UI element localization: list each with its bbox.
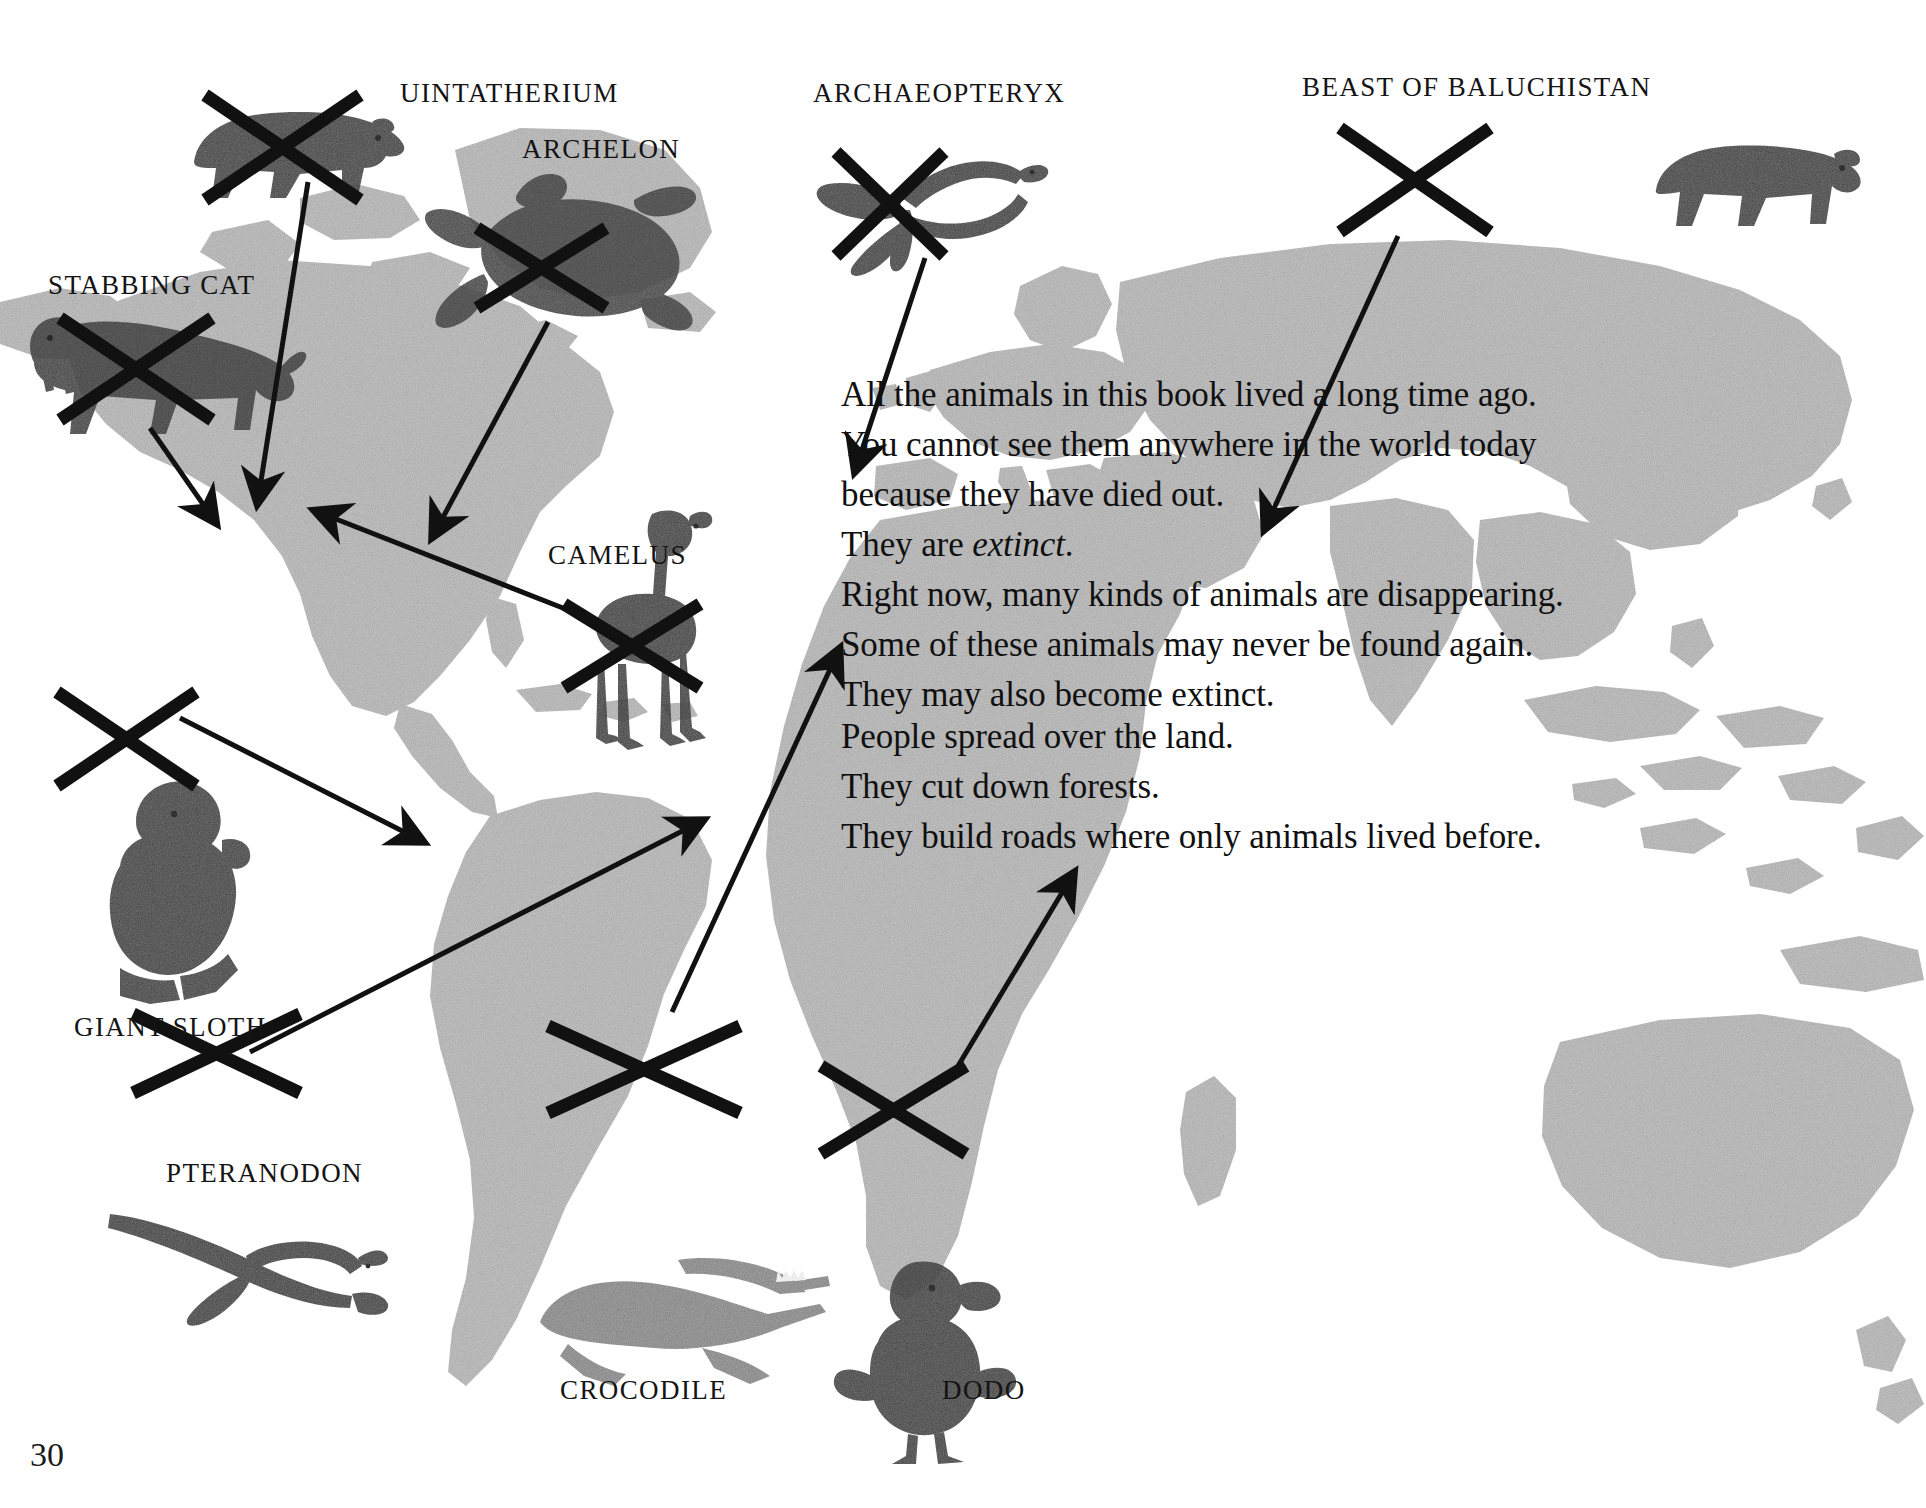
figure-pteranodon: [100, 1196, 390, 1336]
text-line-3: because they have died out.: [841, 470, 1564, 520]
text-line-2: You cannot see them anywhere in the worl…: [841, 420, 1564, 470]
label-beast-of-baluchistan: BEAST OF BALUCHISTAN: [1302, 72, 1651, 103]
label-dodo: DODO: [942, 1375, 1026, 1406]
figure-camelus: [556, 500, 716, 760]
figure-crocodile: [530, 1236, 830, 1396]
paragraph-people-impact: People spread over the land. They cut do…: [841, 712, 1542, 862]
text-line-5: Right now, many kinds of animals are dis…: [841, 570, 1564, 620]
label-pteranodon: PTERANODON: [166, 1158, 363, 1189]
label-giant-sloth: GIANT SLOTH: [74, 1012, 267, 1043]
text-line-1: All the animals in this book lived a lon…: [841, 370, 1564, 420]
figure-uintatherium: [182, 88, 410, 218]
figure-stabbing-cat: [16, 300, 306, 460]
label-uintatherium: UINTATHERIUM: [400, 78, 619, 109]
figure-beast-of-baluchistan: [1636, 128, 1866, 258]
text-line-4: They are extinct.: [841, 520, 1564, 570]
figure-dodo: [820, 1248, 1020, 1468]
figure-archelon: [420, 170, 700, 340]
figure-archaeopteryx: [810, 140, 1050, 280]
label-archelon: ARCHELON: [522, 134, 680, 165]
label-archaeopteryx: ARCHAEOPTERYX: [813, 78, 1065, 109]
label-camelus: CAMELUS: [548, 540, 687, 571]
book-page-spread: UINTATHERIUM ARCHELON ARCHAEOPTERYX BEAS…: [0, 0, 1926, 1508]
figure-giant-sloth: [76, 770, 256, 1010]
text-line-9: They cut down forests.: [841, 762, 1542, 812]
text-line-8: People spread over the land.: [841, 712, 1542, 762]
page-number: 30: [30, 1436, 64, 1474]
label-stabbing-cat: STABBING CAT: [48, 270, 255, 301]
text-line-6: Some of these animals may never be found…: [841, 620, 1564, 670]
label-crocodile: CROCODILE: [560, 1375, 727, 1406]
italic-extinct: extinct: [972, 525, 1065, 564]
paragraph-extinct-explanation: All the animals in this book lived a lon…: [841, 370, 1564, 720]
text-line-10: They build roads where only animals live…: [841, 812, 1542, 862]
